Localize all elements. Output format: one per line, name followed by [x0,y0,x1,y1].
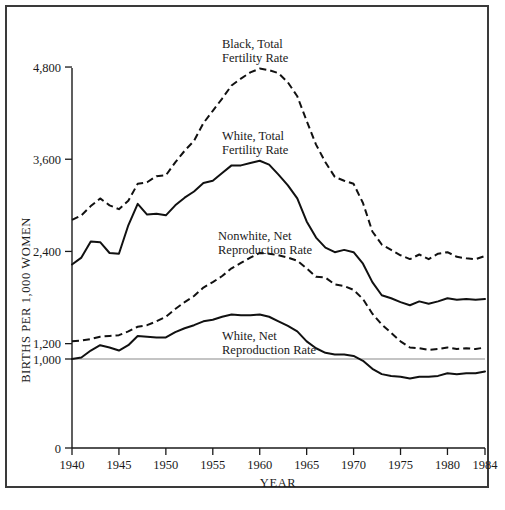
x-tick-label: 1955 [200,458,225,472]
x-tick-label: 1940 [60,458,85,472]
annotation-white-tfr-line2: Fertility Rate [222,143,289,157]
annotation-white-nrr-line1: White, Net [222,329,277,343]
annotation-white-tfr-line1: White, Total [222,129,285,143]
annotation-black-tfr-line2: Fertility Rate [222,51,289,65]
x-tick-label: 1965 [294,458,319,472]
x-tick-label: 1950 [153,458,178,472]
y-tick-label: 0 [55,442,61,456]
y-tick-label: 4,800 [33,61,61,75]
x-tick-label: 1984 [473,458,499,472]
x-tick-group: 1940194519501955196019651970197519801984 [60,448,499,472]
x-tick-label: 1945 [106,458,131,472]
y-tick-group: 4,8003,6002,4001,2001,0000 [33,61,72,456]
y-tick-label: 1,000 [33,353,61,367]
annotation-nonwhite-nrr-line2: Reproduction Rate [218,243,313,257]
y-tick-label: 1,200 [33,337,61,351]
y-tick-label: 2,400 [33,245,61,259]
series-group [72,69,485,379]
axes-group [72,68,485,448]
annotation-nonwhite-nrr-line1: Nonwhite, Net [218,229,292,243]
annotation-black-tfr-line1: Black, Total [222,37,283,51]
x-axis-title: YEAR [260,476,296,490]
x-tick-label: 1980 [435,458,460,472]
x-tick-label: 1960 [247,458,272,472]
y-axis-title: BIRTHS PER 1,000 WOMEN [19,217,33,383]
annotation-white-nrr-line2: Reproduction Rate [222,343,317,357]
figure-container: 4,8003,6002,4001,2001,0000 1940194519501… [0,0,505,510]
fertility-rate-line-chart: 4,8003,6002,4001,2001,0000 1940194519501… [0,0,505,510]
y-tick-label: 3,600 [33,153,61,167]
x-tick-label: 1970 [341,458,366,472]
x-tick-label: 1975 [388,458,413,472]
